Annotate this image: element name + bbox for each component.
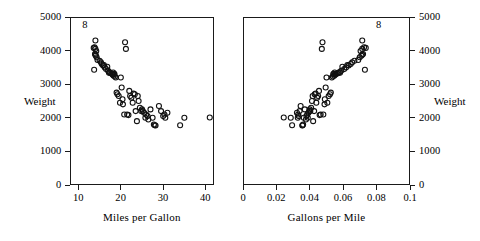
x-tick-label-right-5: 0.1 <box>404 193 417 204</box>
y-tick-label-right-4: 4000 <box>419 46 440 57</box>
data-point <box>288 115 293 120</box>
x-tick-right-5 <box>410 185 411 190</box>
data-point <box>298 104 303 109</box>
y-tick-right-0 <box>410 185 415 186</box>
data-point <box>323 85 328 90</box>
scatter-points-right <box>0 0 480 241</box>
data-point <box>290 123 295 128</box>
y-tick-right-4 <box>410 50 415 51</box>
data-point <box>360 38 365 43</box>
y-tick-right-3 <box>410 84 415 85</box>
data-point <box>320 40 325 45</box>
x-axis-title-right: Gallons per Mile <box>288 211 366 223</box>
data-point <box>314 100 319 105</box>
y-tick-right-2 <box>410 117 415 118</box>
x-tick-label-right-0: 0 <box>241 193 246 204</box>
x-tick-label-right-4: 0.08 <box>367 193 386 204</box>
data-point <box>316 88 321 93</box>
y-tick-label-right-2: 2000 <box>419 113 440 124</box>
data-point <box>295 115 300 120</box>
x-tick-right-1 <box>276 185 277 190</box>
data-point <box>319 46 324 51</box>
y-tick-label-right-5: 5000 <box>419 12 440 23</box>
x-tick-right-3 <box>343 185 344 190</box>
x-tick-right-4 <box>376 185 377 190</box>
y-tick-label-right-3: 3000 <box>419 79 440 90</box>
data-point <box>311 119 316 124</box>
data-point <box>324 75 329 80</box>
x-tick-right-2 <box>309 185 310 190</box>
two-panel-scatter-figure: 8 Weight Miles per Gallon 10203040010002… <box>0 0 480 241</box>
y-tick-label-right-1: 1000 <box>419 146 440 157</box>
x-tick-label-right-2: 0.04 <box>300 193 319 204</box>
panel-gallons-per-mile: 8 Weight Gallons per Mile 00.020.040.060… <box>0 0 480 241</box>
data-point <box>362 67 367 72</box>
x-tick-label-right-3: 0.06 <box>334 193 353 204</box>
y-tick-right-1 <box>410 151 415 152</box>
annotation-8-right: 8 <box>376 20 381 31</box>
x-tick-right-0 <box>243 185 244 190</box>
y-tick-right-5 <box>410 17 415 18</box>
y-axis-title-right: Weight <box>434 95 466 107</box>
x-tick-label-right-1: 0.02 <box>267 193 286 204</box>
data-point <box>281 115 286 120</box>
y-tick-label-right-0: 0 <box>419 180 424 191</box>
